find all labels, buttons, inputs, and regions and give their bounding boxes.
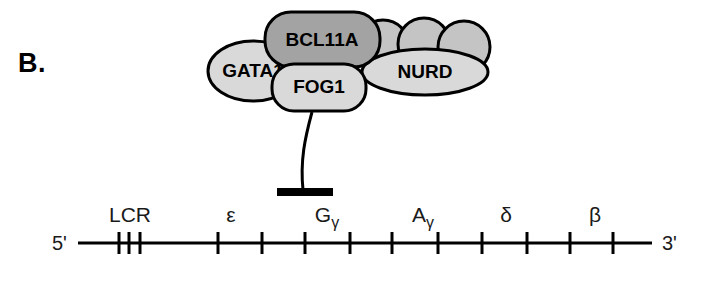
gene-label-agamma-sub: γ xyxy=(426,214,434,231)
gene-label-epsilon-base: ε xyxy=(226,203,235,226)
gene-label-lcr: LCR xyxy=(109,203,151,226)
gene-label-delta-base: δ xyxy=(500,203,512,226)
gene-label-agamma-base: A xyxy=(412,203,426,226)
gene-label-lcr-base: LCR xyxy=(109,203,151,226)
three-prime-label: 3' xyxy=(662,232,677,254)
five-prime-label: 5' xyxy=(52,232,67,254)
gene-label-agamma: Aγ xyxy=(412,203,434,231)
gene-label-beta-base: β xyxy=(589,203,601,226)
gene-label-epsilon: ε xyxy=(226,203,235,226)
gene-label-beta: β xyxy=(589,203,601,226)
gene-label-ggamma-sub: γ xyxy=(331,214,339,231)
beta-globin-locus-diagram: 5' 3' LCR ε Gγ Aγ δ β xyxy=(0,0,720,299)
gene-label-ggamma: Gγ xyxy=(315,203,339,231)
figure-panel-b: B. NURD GATA1 BCL11A FOG1 xyxy=(0,0,720,299)
gene-label-ggamma-base: G xyxy=(315,203,331,226)
gene-label-group: LCR ε Gγ Aγ δ β xyxy=(109,203,601,231)
gene-label-delta: δ xyxy=(500,203,512,226)
